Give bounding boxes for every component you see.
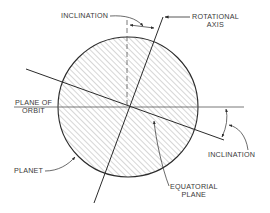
planet-label: PLANET (14, 167, 43, 175)
plane-of-orbit-label: PLANE OF ORBIT (15, 99, 52, 115)
inclination-top-label: INCLINATION (61, 12, 108, 20)
inclination-right-label: INCLINATION (208, 151, 255, 159)
equatorial-plane-label: EQUATORIAL PLANE (170, 183, 218, 199)
rotational-axis-label: ROTATIONAL AXIS (192, 13, 239, 29)
right-inclination-leader (229, 125, 248, 150)
plane-of-orbit-label-line2: ORBIT (15, 107, 52, 115)
planet-leader (45, 157, 75, 171)
right-inclination-dimension (222, 109, 227, 137)
equatorial-plane-label-line2: PLANE (170, 191, 218, 199)
top-inclination-leader (110, 16, 143, 26)
rotational-axis-label-line2: AXIS (192, 21, 239, 29)
top-inclination-dimension (130, 25, 154, 28)
